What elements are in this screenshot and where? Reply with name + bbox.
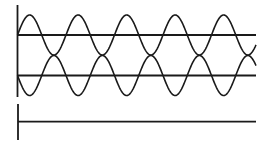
bottom-panel — [18, 104, 256, 140]
wave-diagram — [0, 0, 269, 148]
top-panel — [18, 5, 257, 97]
waves — [18, 15, 257, 96]
